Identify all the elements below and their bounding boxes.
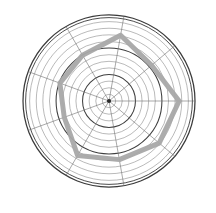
figure-background (0, 0, 216, 213)
center-marker-group (107, 99, 111, 103)
polar-chart-figure (0, 0, 216, 213)
center-marker (107, 99, 111, 103)
polar-chart-svg (0, 0, 216, 213)
